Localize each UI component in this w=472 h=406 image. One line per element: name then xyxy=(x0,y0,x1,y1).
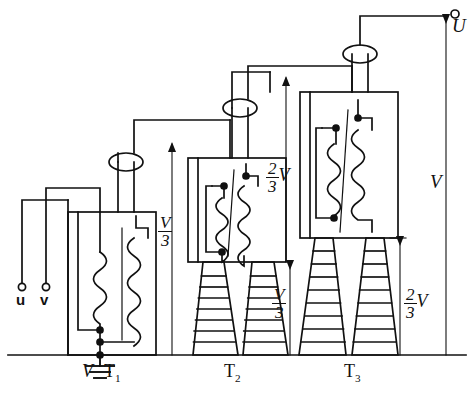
dim-label-v-total: V xyxy=(430,172,442,191)
ground-V-label: V xyxy=(82,362,93,380)
dim-label-v-over-3-stage2-base: V 3 xyxy=(272,286,286,321)
T1-letter: T xyxy=(104,361,115,381)
dim4-numerator: 2 xyxy=(404,286,417,303)
dim3-denominator: 3 xyxy=(272,303,286,321)
input-leads xyxy=(18,188,100,291)
U-terminal-label: U xyxy=(452,16,466,35)
dim4-suffix: V xyxy=(417,291,428,311)
transformer-label-T1: T1 xyxy=(104,362,121,384)
v-terminal-label: v xyxy=(40,292,48,307)
T3-letter: T xyxy=(344,361,355,381)
u-terminal-label: u xyxy=(16,292,25,307)
T3-insulator-left xyxy=(299,238,346,355)
T2-index: 2 xyxy=(235,372,241,384)
T3-insulator-right xyxy=(352,238,398,355)
schematic-drawing xyxy=(0,0,472,406)
T1-index: 1 xyxy=(115,372,121,384)
T2-letter: T xyxy=(224,361,235,381)
dim2-numerator: 2 xyxy=(266,160,279,177)
dim-label-2v-over-3-stage2: 2 3 V xyxy=(266,160,290,195)
transformer-T2 xyxy=(188,66,352,355)
dim4-denominator: 3 xyxy=(404,303,417,321)
dim2-suffix: V xyxy=(279,165,290,185)
dim3-numerator: V xyxy=(272,286,286,303)
T2-insulator-left xyxy=(193,262,238,355)
transformer-label-T3: T3 xyxy=(344,362,361,384)
T3-index: 3 xyxy=(355,372,361,384)
transformer-label-T2: T2 xyxy=(224,362,241,384)
figure-canvas: u v U V T1 T2 T3 V 3 2 3 V V 3 2 3 V V xyxy=(0,0,472,406)
dim1-denominator: 3 xyxy=(158,231,172,249)
dim1-numerator: V xyxy=(158,214,172,231)
dim-label-v-over-3-stage1: V 3 xyxy=(158,214,172,249)
dim2-denominator: 3 xyxy=(266,177,279,195)
T1-hv-tap xyxy=(136,216,148,238)
dim-label-2v-over-3-stage3-base: 2 3 V xyxy=(404,286,428,321)
